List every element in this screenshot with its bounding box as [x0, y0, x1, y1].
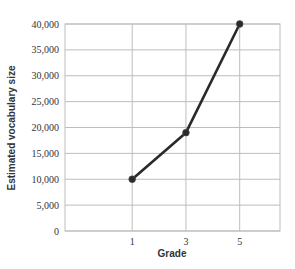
- line-chart: 05,00010,00015,00020,00025,00030,00035,0…: [0, 0, 295, 269]
- y-tick-label: 0: [54, 226, 59, 237]
- y-tick-label: 35,000: [32, 44, 60, 55]
- y-tick-label: 40,000: [32, 19, 60, 30]
- y-tick-label: 10,000: [32, 174, 60, 185]
- y-tick-label: 25,000: [32, 96, 60, 107]
- data-point-marker: [183, 129, 190, 136]
- y-tick-label: 15,000: [32, 148, 60, 159]
- y-tick-label: 30,000: [32, 70, 60, 81]
- x-axis-tick-labels: 135: [130, 236, 243, 247]
- data-point-marker: [129, 176, 136, 183]
- x-tick-label: 5: [237, 236, 242, 247]
- data-point-marker: [236, 21, 243, 28]
- x-tick-label: 1: [130, 236, 135, 247]
- x-tick-label: 3: [183, 236, 188, 247]
- horizontal-gridlines: [65, 24, 280, 231]
- x-axis-title: Grade: [158, 248, 187, 259]
- y-axis-title: Estimated vocabulary size: [6, 65, 17, 190]
- y-tick-label: 5,000: [37, 200, 60, 211]
- y-tick-label: 20,000: [32, 122, 60, 133]
- y-axis-tick-labels: 05,00010,00015,00020,00025,00030,00035,0…: [32, 19, 60, 237]
